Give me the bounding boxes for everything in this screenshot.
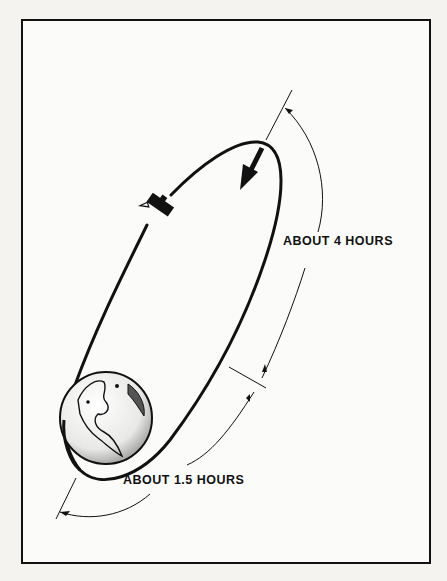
orbit-diagram	[0, 0, 447, 581]
satellite-icon	[140, 188, 176, 223]
direction-arrow-icon	[240, 148, 262, 190]
four-hour-span-indicator	[187, 90, 323, 465]
earth-icon	[60, 372, 152, 464]
label-about-4-hours: ABOUT 4 HOURS	[283, 234, 393, 248]
label-about-1-5-hours: ABOUT 1.5 HOURS	[123, 473, 244, 487]
